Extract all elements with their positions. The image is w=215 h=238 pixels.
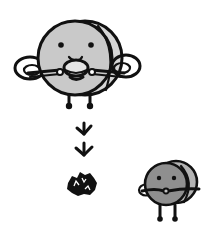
right-eye-icon	[88, 42, 94, 48]
big-planet	[15, 21, 140, 109]
illustration-canvas	[0, 0, 215, 238]
small-planet	[139, 161, 199, 222]
arrow-down-icon	[76, 143, 92, 155]
crumbs	[67, 172, 97, 196]
left-eye-icon	[58, 42, 64, 48]
arrow-down-icon	[77, 123, 91, 134]
illustration	[0, 0, 215, 238]
